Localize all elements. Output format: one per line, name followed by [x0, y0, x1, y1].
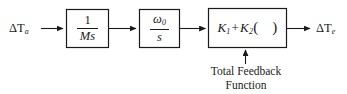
fraction-numerator: 1	[77, 14, 98, 27]
feedback-caption-line1: Total Feedback	[186, 64, 306, 78]
block-integrator-mass[interactable]: 1 Ms	[66, 9, 109, 48]
feedback-function-caption: Total Feedback Function	[186, 64, 306, 92]
gain-open-paren: (	[253, 19, 258, 35]
input-signal-symbol: ΔT	[9, 21, 25, 35]
fraction-denominator: Ms	[77, 30, 98, 43]
fraction-one-over-ms: 1 Ms	[77, 14, 98, 43]
gain-operator: +	[231, 20, 241, 35]
gain-term2: K	[240, 20, 249, 35]
gain-expression: K1+K2()	[217, 19, 277, 36]
output-signal-symbol: ΔT	[316, 21, 332, 35]
fraction-omega-over-s: ω0 s	[150, 13, 169, 44]
feedback-caption-line2: Function	[186, 78, 306, 92]
block-omega-over-s[interactable]: ω0 s	[139, 9, 180, 48]
gain-close-paren: )	[272, 19, 277, 35]
gain-term1: K	[217, 20, 226, 35]
output-signal-label: ΔTe	[316, 21, 335, 36]
fraction-denominator: s	[150, 31, 169, 44]
block-diagram: ΔTa 1 Ms ω0 s K1+K2() ΔTe Total Feedback…	[0, 0, 347, 94]
input-signal-label: ΔTa	[9, 21, 29, 36]
output-signal-subscript: e	[332, 27, 336, 36]
gain-term1-subscript: 1	[226, 28, 230, 37]
omega-symbol: ω	[153, 12, 162, 26]
omega-subscript: 0	[162, 18, 166, 27]
block-total-feedback-gain[interactable]: K1+K2()	[208, 8, 287, 48]
fraction-numerator: ω0	[150, 13, 169, 28]
input-signal-subscript: a	[25, 27, 29, 36]
